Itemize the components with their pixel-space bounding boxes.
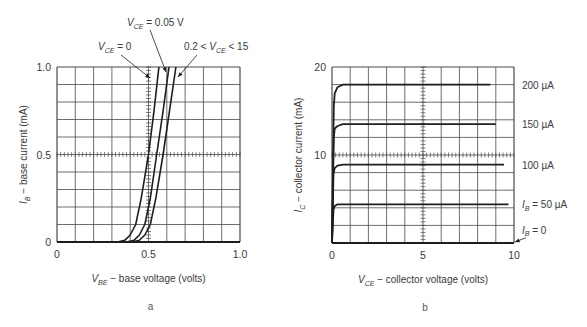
x-tick-label: 10 (508, 249, 520, 261)
curve (332, 85, 490, 243)
x-tick-label: 0 (329, 249, 335, 261)
x-tick-label: 1.0 (233, 248, 248, 260)
y-axis-label: IB − base current (mA) (18, 105, 31, 204)
curve-label: IB = 50 µA (522, 199, 568, 212)
annotation-arrow-icon (150, 30, 166, 72)
y-tick-label: 0.5 (36, 149, 51, 161)
y-tick-label: 1.0 (36, 61, 51, 73)
x-axis-label: VCE − collector voltage (volts) (358, 274, 488, 287)
x-axis-label: VBE − base voltage (volts) (91, 273, 205, 286)
annotation-label: 0.2 < VCE < 15 (184, 41, 249, 54)
y-tick-label: 0 (45, 236, 51, 248)
chart-b-collector-characteristics: 05101020VCE − collector voltage (volts)I… (293, 61, 568, 313)
curve-label: 150 µA (522, 119, 554, 130)
x-tick-label: 0 (54, 248, 60, 260)
panel-label: a (148, 301, 154, 312)
grid-b (332, 67, 514, 243)
panel-label: b (422, 302, 428, 313)
annotation-label: VCE = 0 (98, 41, 132, 54)
y-tick-label: 20 (314, 61, 326, 73)
curve-label: IB = 0 (522, 225, 547, 238)
tick-labels-b: 05101020 (314, 61, 520, 261)
curve-label: 100 µA (522, 160, 554, 171)
y-axis-label: IC − collector current (mA) (293, 98, 306, 213)
curve (332, 204, 509, 243)
transistor-characteristics-figure: 00.51.000.51.0VBE − base voltage (volts)… (0, 0, 587, 327)
y-tick-label: 10 (314, 149, 326, 161)
curve-label: 200 µA (522, 80, 554, 91)
x-tick-label: 0.5 (141, 248, 156, 260)
annotation-label: VCE = 0.05 V (127, 17, 184, 30)
x-tick-label: 5 (420, 249, 426, 261)
chart-a-base-characteristics: 00.51.000.51.0VBE − base voltage (volts)… (18, 17, 249, 312)
